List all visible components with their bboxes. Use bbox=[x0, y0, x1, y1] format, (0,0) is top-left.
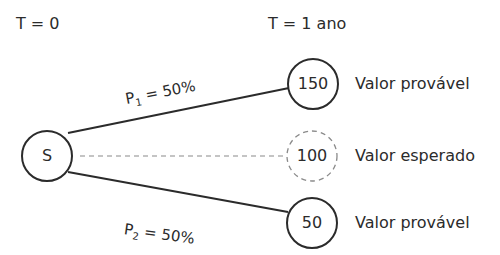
node-50-caption: Valor provável bbox=[355, 215, 470, 231]
node-50-value: 50 bbox=[287, 215, 337, 231]
time-label-end: T = 1 ano bbox=[268, 16, 346, 32]
node-100-value: 100 bbox=[287, 148, 337, 164]
node-100-caption: Valor esperado bbox=[355, 148, 475, 164]
branch-down-line bbox=[68, 172, 288, 212]
node-150-caption: Valor provável bbox=[355, 76, 470, 92]
time-label-start: T = 0 bbox=[16, 16, 60, 32]
binomial-tree-diagram: T = 0 T = 1 ano S 150 100 50 Valor prová… bbox=[0, 0, 500, 255]
node-150-value: 150 bbox=[288, 76, 338, 92]
root-node-label: S bbox=[22, 148, 72, 164]
